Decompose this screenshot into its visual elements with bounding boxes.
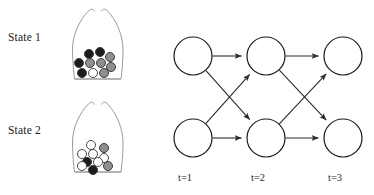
edge-n11-to-n22 — [206, 71, 250, 120]
time-label-t3: t=3 — [328, 172, 342, 183]
trellis-graph — [168, 0, 374, 170]
state-2-label: State 2 — [8, 124, 41, 136]
trellis-nodes — [174, 37, 362, 157]
time-label-t2: t=2 — [251, 172, 265, 183]
urn-outline-2 — [60, 98, 136, 190]
time-label-t1: t=1 — [178, 172, 192, 183]
edge-n22-to-n31 — [279, 74, 326, 124]
node-n32 — [324, 119, 362, 157]
urn-state-2 — [60, 98, 136, 190]
node-n11 — [174, 37, 212, 75]
node-n21 — [247, 37, 285, 75]
node-n31 — [324, 37, 362, 75]
urn-state-1 — [60, 5, 136, 97]
state-1-label: State 1 — [8, 31, 41, 43]
edge-n12-to-n21 — [206, 74, 250, 123]
edge-n21-to-n32 — [279, 70, 326, 120]
node-n12 — [174, 119, 212, 157]
node-n22 — [247, 119, 285, 157]
figure-canvas: State 1 State 2 t=1 t=2 t=3 — [0, 0, 374, 195]
